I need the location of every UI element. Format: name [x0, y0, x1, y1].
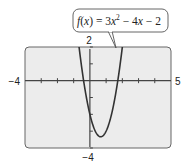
callout-pointer [108, 31, 116, 48]
x-max-label: 5 [175, 76, 181, 87]
y-max-label: 2 [86, 35, 92, 46]
function-label: f(x) = 3x2 − 4x − 2 [77, 13, 161, 28]
graph-figure: −4 5 2 −4 f(x) = 3x2 − 4x − 2 [0, 0, 187, 167]
y-min-label: −4 [82, 152, 94, 163]
x-min-label: −4 [9, 76, 21, 87]
plot-window [25, 47, 171, 148]
